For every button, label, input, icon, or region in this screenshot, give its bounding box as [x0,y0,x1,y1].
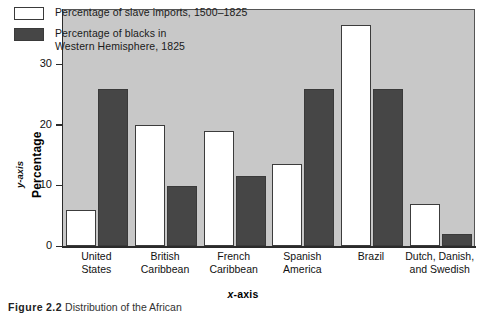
y-axis-titles: y-axis Percentage [0,88,58,198]
y-axis-line [62,9,63,247]
bar-blacks-western-hemisphere [236,176,266,246]
y-axis-tick-label: 30 [22,57,52,69]
y-axis-tick-label: 0 [22,239,52,251]
y-axis-tick-value: 0 [26,239,52,251]
bar-blacks-western-hemisphere [167,186,197,247]
bar-slave-imports [204,131,234,246]
x-axis-tick-labels: United StatesBritish CaribbeanFrench Car… [62,250,476,292]
legend-item-blacks-western-hemisphere: Percentage of blacks in Western Hemisphe… [14,27,344,52]
legend-label-slave-imports: Percentage of slave imports, 1500–1825 [55,6,247,19]
bar-slave-imports [66,210,96,246]
figure-caption-text: Distribution of the African [65,301,182,313]
legend-label-blacks-western-hemisphere: Percentage of blacks in Western Hemisphe… [55,27,185,52]
y-axis-tick [56,64,63,66]
bar-blacks-western-hemisphere [304,89,334,246]
bar-slave-imports [410,204,440,246]
legend-swatch-light [14,7,44,20]
legend-item-slave-imports: Percentage of slave imports, 1500–1825 [14,6,344,20]
bar-blacks-western-hemisphere [373,89,403,246]
figure-caption-number: 2.2 [46,301,62,313]
bar-slave-imports [272,164,302,246]
figure-caption-label: Figure [8,301,43,313]
y-axis-tick-value: 30 [26,57,52,69]
x-axis-line [62,246,476,248]
bar-slave-imports [135,125,165,246]
chart-legend: Percentage of slave imports, 1500–1825 P… [14,6,344,59]
x-axis-category-label: Dutch, Danish, and Swedish [395,250,485,276]
x-axis-title: x-axis [0,288,486,300]
legend-swatch-dark [14,28,44,41]
figure-caption: Figure 2.2 Distribution of the African [8,301,182,313]
y-axis-label: Percentage [30,131,44,198]
bar-blacks-western-hemisphere [442,234,472,246]
y-axis-tick [56,246,63,248]
bar-slave-imports [341,25,371,246]
y-axis-name: y-axis [14,161,25,188]
bar-blacks-western-hemisphere [98,89,128,246]
